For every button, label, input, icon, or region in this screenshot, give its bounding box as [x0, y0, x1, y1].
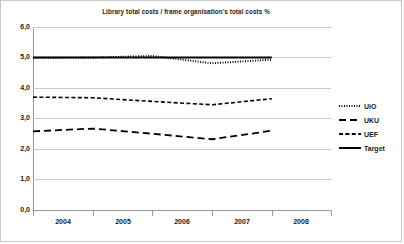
legend-label-uef: UEF	[361, 131, 378, 138]
legend-label-uio: UiO	[361, 103, 376, 110]
y-tick-label-4: 4,0	[4, 84, 30, 91]
legend-label-uku: UKU	[361, 117, 379, 124]
legend-swatch-dashed-short-icon	[339, 129, 361, 139]
legend-item-uef[interactable]: UEF	[339, 127, 401, 141]
legend-item-uku[interactable]: UKU	[339, 113, 401, 127]
y-axis-labels: 6,0 5,0 4,0 3,0 2,0 1,0 0,0	[1, 1, 30, 244]
x-tick-label-2005: 2005	[103, 218, 143, 225]
chart-legend: UiO UKU UEF Target	[339, 99, 401, 155]
legend-item-target[interactable]: Target	[339, 141, 401, 155]
y-tick-label-6: 6,0	[4, 23, 30, 30]
series-lines	[33, 27, 331, 210]
legend-item-uio[interactable]: UiO	[339, 99, 401, 113]
chart-frame: Library total costs / frame organisation…	[0, 0, 402, 242]
legend-swatch-dashed-long-icon	[339, 115, 361, 125]
plot-area	[33, 27, 331, 210]
y-tick-label-5: 5,0	[4, 53, 30, 60]
x-tick-mark-5	[331, 211, 332, 216]
y-tick-label-1: 1,0	[4, 175, 30, 182]
x-axis-line	[33, 210, 332, 211]
legend-label-target: Target	[361, 145, 385, 152]
x-tick-mark-2	[152, 211, 153, 216]
x-tick-label-2008: 2008	[281, 218, 321, 225]
series-line-uef	[33, 97, 272, 105]
x-tick-label-2007: 2007	[222, 218, 262, 225]
x-tick-mark-3	[212, 211, 213, 216]
y-tick-label-2: 2,0	[4, 145, 30, 152]
series-line-uku	[33, 129, 272, 140]
y-tick-label-3: 3,0	[4, 114, 30, 121]
chart-title: Library total costs / frame organisation…	[41, 7, 331, 16]
x-tick-mark-4	[272, 211, 273, 216]
x-tick-mark-1	[93, 211, 94, 216]
x-tick-label-2004: 2004	[43, 218, 83, 225]
x-tick-mark-0	[33, 211, 34, 216]
x-tick-label-2006: 2006	[162, 218, 202, 225]
legend-swatch-solid-icon	[339, 143, 361, 153]
legend-swatch-dotted-icon	[339, 101, 361, 111]
y-tick-label-0: 0,0	[4, 206, 30, 213]
